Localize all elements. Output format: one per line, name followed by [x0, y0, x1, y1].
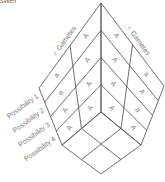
female-allele: A [109, 80, 118, 88]
male-allele: A [81, 32, 90, 40]
female-allele: a [134, 106, 142, 113]
possibility-labels: Possibility 1Possibility 2Possibility 3P… [5, 92, 57, 163]
female-allele: A [108, 104, 117, 112]
male-allele: A [83, 56, 92, 64]
grid-cells: aAaAAAAAAaAAAaAA [52, 31, 151, 131]
female-allele: A [112, 31, 121, 39]
female-allele: A [129, 123, 138, 131]
female-allele: A [111, 56, 120, 64]
female-face-row-line [101, 3, 164, 86]
male-face-row-line [39, 3, 101, 88]
male-allele: A [65, 123, 74, 131]
male-allele: a [52, 71, 60, 78]
male-allele: A [86, 104, 95, 112]
male-allele: a [56, 89, 64, 96]
bottom-face-line [101, 145, 141, 174]
male-allele: A [84, 80, 93, 88]
female-allele: A [138, 88, 147, 96]
punnett-cube-diagram: aAaAAAAAAaAAAaAA ♂ Gametes ♀ Gametes Pos… [0, 0, 165, 182]
male-allele: A [61, 106, 70, 114]
female-allele: a [143, 70, 151, 77]
